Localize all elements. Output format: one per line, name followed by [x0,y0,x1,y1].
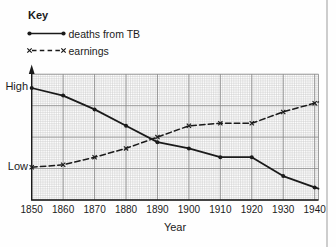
dot-marker-icon [218,155,222,159]
chart-canvas: Key deaths from TB earnings High Low 185… [0,0,336,247]
dot-marker-icon [250,155,254,159]
x-tick-label: 1860 [52,204,75,215]
key-label-earnings: earnings [69,45,109,57]
dot-marker-icon [281,174,285,178]
key-item-earnings: earnings [27,45,108,57]
dot-marker-icon [155,140,159,144]
page-edge-line [326,0,328,247]
dot-marker-icon [93,107,97,111]
dot-marker-icon [27,31,31,35]
x-tick-labels: 1850186018701880189019001910192019301940 [21,204,327,215]
tb-deaths-earnings-graph: Key deaths from TB earnings High Low 185… [0,0,336,247]
key-title: Key [28,9,49,21]
data-series [30,86,319,189]
x-tick-label: 1930 [272,204,295,215]
dot-marker-icon [61,31,65,35]
x-tick-label: 1920 [241,204,264,215]
dot-marker-icon [187,146,191,150]
earnings-line-series [30,101,319,169]
x-tick-label: 1900 [178,204,201,215]
x-tick-label: 1850 [21,204,44,215]
x-tick-label: 1870 [83,204,106,215]
x-tick-label: 1890 [146,204,169,215]
x-marker-icon [61,48,65,52]
key-label-deaths: deaths from TB [69,28,141,40]
axis-labels: High Low 1850186018701880189019001910192… [5,80,326,233]
deaths-line-series [30,86,319,189]
x-axis-title: Year [164,221,187,233]
dot-marker-icon [61,94,65,98]
y-axis-label-high: High [5,80,28,92]
dot-marker-icon [313,185,317,189]
y-axis-label-low: Low [8,160,28,172]
x-tick-label: 1940 [304,204,327,215]
key-legend: Key deaths from TB earnings [27,9,140,57]
key-item-deaths: deaths from TB [27,28,140,40]
solid-line [32,88,319,189]
y-axis-arrow-icon [29,65,35,75]
dot-marker-icon [124,124,128,128]
x-tick-label: 1910 [209,204,232,215]
grid [32,74,319,200]
x-tick-label: 1880 [115,204,138,215]
x-marker-icon [27,48,31,52]
